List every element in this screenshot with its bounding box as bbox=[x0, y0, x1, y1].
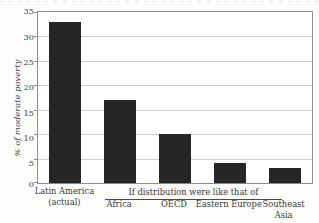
y-tick-20: 20 bbox=[14, 82, 34, 92]
y-tick-30: 30 bbox=[14, 32, 34, 42]
y-tick-15: 15 bbox=[14, 108, 34, 118]
x-category-label-4-line2: Asia bbox=[247, 210, 319, 221]
x-category-label-4: SoutheastAsia bbox=[247, 199, 319, 220]
y-tick-35: 35 bbox=[14, 6, 34, 16]
y-tick-25: 25 bbox=[14, 57, 34, 67]
x-axis-category-labels: Latin America(actual)AfricaOECDEastern E… bbox=[0, 186, 319, 223]
bar-4 bbox=[269, 168, 301, 183]
y-tick-5: 5 bbox=[14, 158, 34, 168]
bar-3 bbox=[214, 163, 246, 183]
scan-artifact-line bbox=[0, 1, 319, 2]
plot-area bbox=[37, 11, 313, 184]
bar-2 bbox=[159, 134, 191, 183]
x-category-label-4-line1: Southeast bbox=[247, 199, 319, 210]
x-category-label-0-line1: Latin America bbox=[27, 186, 101, 197]
bar-1 bbox=[104, 100, 136, 183]
bar-chart-figure: % of moderate poverty 35 30 25 20 15 10 … bbox=[0, 0, 319, 223]
y-tick-10: 10 bbox=[14, 133, 34, 143]
bar-series bbox=[38, 12, 312, 183]
bar-0 bbox=[49, 22, 81, 183]
